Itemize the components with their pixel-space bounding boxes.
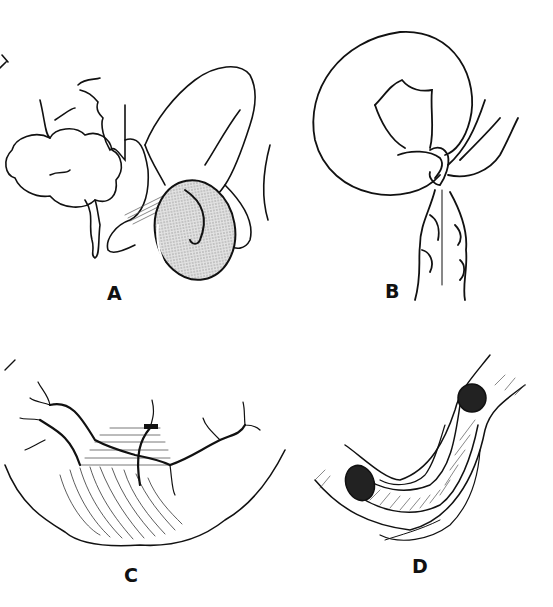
panel-b: B [290,0,553,310]
panel-a: A [0,0,280,310]
panel-a-label: A [107,282,122,304]
panel-b-label: B [385,280,399,302]
panel-c-illustration [0,340,300,607]
panel-c: C [0,340,300,607]
ligature-marker [144,424,158,429]
panel-d-label: D [412,555,428,577]
panel-c-label: C [124,564,138,586]
panel-d: D [300,340,553,607]
panel-b-illustration [290,0,553,310]
panel-a-illustration [0,0,280,310]
